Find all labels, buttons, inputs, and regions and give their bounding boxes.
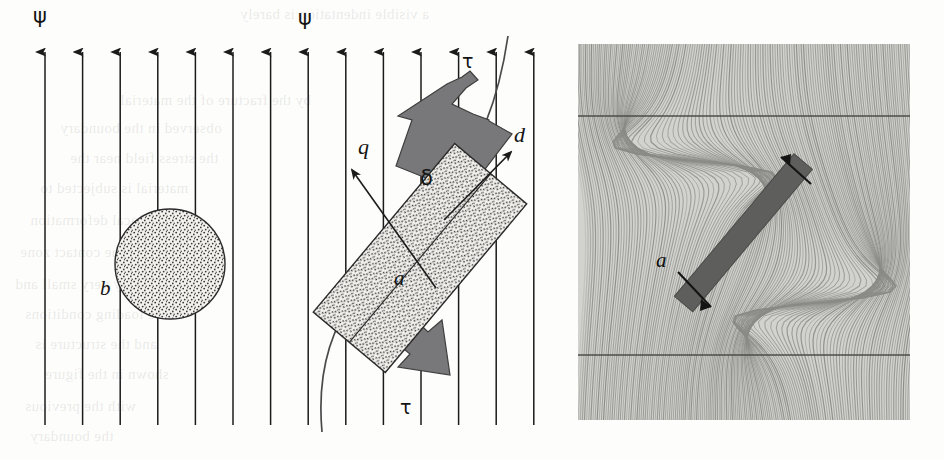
circle-label-b: b — [100, 276, 111, 301]
left-schematic-panel: ψ ψ b a q d δ τ τ — [0, 0, 578, 460]
tau-label-top: τ — [462, 50, 473, 72]
psi-label-right: ψ — [298, 6, 312, 30]
tau-label-bottom: τ — [400, 396, 411, 418]
beam-label-a: a — [394, 266, 405, 291]
psi-label-left: ψ — [33, 4, 47, 28]
delta-angle-label: δ — [420, 166, 433, 190]
right-fringe-panel: a — [578, 44, 910, 420]
d-label: d — [514, 122, 525, 148]
q-label: q — [358, 134, 369, 160]
schematic-svg — [0, 0, 578, 460]
fringe-field-svg — [578, 44, 910, 420]
figure-root: a visible indentation is barelyby the fr… — [0, 0, 944, 460]
circular-inclusion — [115, 209, 225, 319]
right-panel-label-a: a — [656, 248, 667, 273]
